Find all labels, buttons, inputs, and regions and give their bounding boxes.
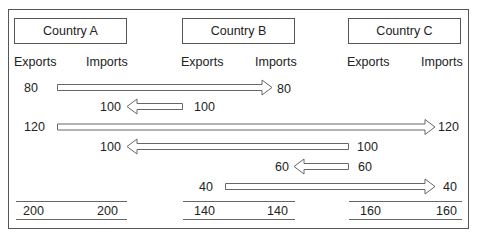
arrow-right-icon (226, 179, 436, 194)
total-line-top-c (349, 201, 462, 202)
flow-b-c-export-value: 40 (199, 180, 213, 194)
country-c-total-exports: 160 (360, 204, 381, 218)
total-line-top-a (16, 201, 127, 202)
arrow-left-icon (127, 139, 349, 154)
country-a-total-exports: 200 (23, 204, 44, 218)
arrow-left-icon (127, 99, 183, 114)
flow-a-b-import-value: 80 (277, 82, 291, 96)
country-b-total-imports: 140 (267, 204, 288, 218)
total-line-bottom-b (183, 219, 295, 220)
arrow-left-icon (294, 159, 349, 174)
flow-c-b-import-value: 60 (275, 160, 289, 174)
flow-a-b-export-value: 80 (24, 81, 38, 95)
flow-c-a-import-value: 100 (100, 140, 121, 154)
flow-a-c-import-value: 120 (438, 120, 459, 134)
flow-a-c-export-value: 120 (24, 120, 45, 134)
flow-c-a-export-value: 100 (357, 140, 378, 154)
flow-b-a-import-value: 100 (100, 100, 121, 114)
total-line-bottom-c (349, 219, 462, 220)
arrow-right-icon (58, 80, 273, 95)
country-a-total-imports: 200 (97, 204, 118, 218)
arrow-right-icon (58, 120, 436, 135)
total-line-bottom-a (16, 219, 127, 220)
flow-c-b-export-value: 60 (358, 160, 372, 174)
flow-b-a-export-value: 100 (194, 100, 215, 114)
total-line-top-b (183, 201, 295, 202)
country-c-total-imports: 160 (436, 204, 457, 218)
country-b-total-exports: 140 (194, 204, 215, 218)
flow-b-c-import-value: 40 (443, 180, 457, 194)
